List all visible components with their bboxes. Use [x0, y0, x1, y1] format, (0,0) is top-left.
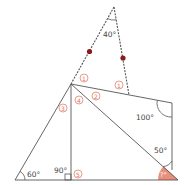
svg-text:2: 2	[94, 93, 98, 100]
diagonal	[71, 84, 178, 180]
marker-1-left: 1	[80, 74, 88, 82]
svg-text:3: 3	[61, 105, 65, 112]
equal-mark-dot-left	[87, 49, 92, 54]
bottom-left-angle-label: 60°	[27, 170, 41, 179]
marker-2: 2	[92, 92, 100, 100]
bottom-left-angle-arc	[20, 171, 25, 180]
quad-top	[71, 84, 172, 103]
svg-text:1: 1	[82, 75, 86, 82]
apex-angle-arc	[108, 19, 117, 20]
marker-3: 3	[59, 104, 67, 112]
right-lower-angle-label: 50°	[154, 146, 168, 155]
unknown-angle-label: ?°	[160, 171, 167, 179]
equal-mark-dot-right	[120, 55, 125, 60]
svg-text:1: 1	[117, 82, 121, 89]
right-angle-label: 90°	[54, 166, 68, 175]
marker-4: 4	[75, 96, 83, 104]
svg-text:4: 4	[77, 97, 81, 104]
apex-angle-label: 40°	[103, 30, 117, 39]
marker-1-right: 1	[115, 81, 123, 89]
svg-text:5: 5	[76, 171, 80, 178]
marker-5: 5	[74, 170, 82, 178]
geometry-diagram: 40° 60° 90° 100° 50° ?° 1 1 2 3 4 5	[0, 0, 184, 185]
quad-corner-angle-label: 100°	[136, 113, 154, 122]
right-lower-angle-arc	[163, 161, 172, 167]
